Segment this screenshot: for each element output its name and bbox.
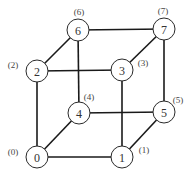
- node-label-7: (7): [158, 6, 169, 16]
- node-id-text: 1: [119, 151, 125, 165]
- node-label-6: (6): [74, 7, 85, 17]
- node-6: 6: [67, 19, 89, 41]
- node-1: 1: [111, 146, 133, 168]
- node-0: 0: [26, 146, 48, 168]
- node-id-text: 2: [34, 65, 40, 79]
- node-5: 5: [153, 101, 175, 123]
- edge-2-3: [37, 70, 122, 71]
- node-id-text: 4: [76, 107, 82, 121]
- node-4: 4: [68, 102, 90, 124]
- node-label-5: (5): [173, 95, 184, 105]
- node-3: 3: [111, 59, 133, 81]
- node-id-text: 3: [119, 64, 125, 78]
- node-id-text: 0: [34, 151, 40, 165]
- node-label-0: (0): [8, 147, 19, 157]
- node-label-2: (2): [8, 60, 19, 70]
- edge-6-7: [78, 29, 164, 30]
- edge-4-5: [79, 112, 164, 113]
- node-2: 2: [26, 60, 48, 82]
- node-label-1: (1): [139, 145, 150, 155]
- node-id-text: 6: [75, 24, 81, 38]
- node-label-3: (3): [138, 58, 149, 68]
- edges-group: [37, 29, 164, 157]
- node-id-text: 5: [161, 106, 167, 120]
- node-label-4: (4): [84, 92, 95, 102]
- diagram-svg: 01234567 (0)(1)(2)(3)(4)(5)(6)(7): [0, 0, 190, 173]
- node-id-text: 7: [161, 23, 167, 37]
- hypercube-diagram: 01234567 (0)(1)(2)(3)(4)(5)(6)(7): [0, 0, 190, 173]
- node-7: 7: [153, 18, 175, 40]
- edge-4-6: [78, 30, 79, 113]
